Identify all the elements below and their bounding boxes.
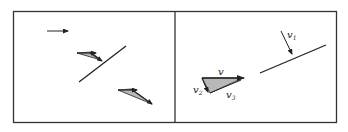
v2-label: v2 bbox=[193, 84, 203, 96]
figure-frame bbox=[14, 11, 337, 123]
right-panel: v1 v v2 v3 bbox=[193, 29, 326, 101]
decomposition-triangle-icon bbox=[202, 78, 244, 93]
lower-velocity-triangle-icon bbox=[118, 89, 152, 104]
v1-label: v1 bbox=[287, 29, 296, 41]
v-label: v bbox=[218, 66, 224, 77]
v3-label: v3 bbox=[226, 89, 236, 101]
diagram-canvas: v1 v v2 v3 bbox=[0, 0, 348, 132]
surface-line bbox=[79, 46, 126, 82]
surface-line bbox=[260, 45, 326, 73]
upper-velocity-triangle-icon bbox=[77, 52, 102, 61]
left-panel bbox=[47, 31, 152, 104]
